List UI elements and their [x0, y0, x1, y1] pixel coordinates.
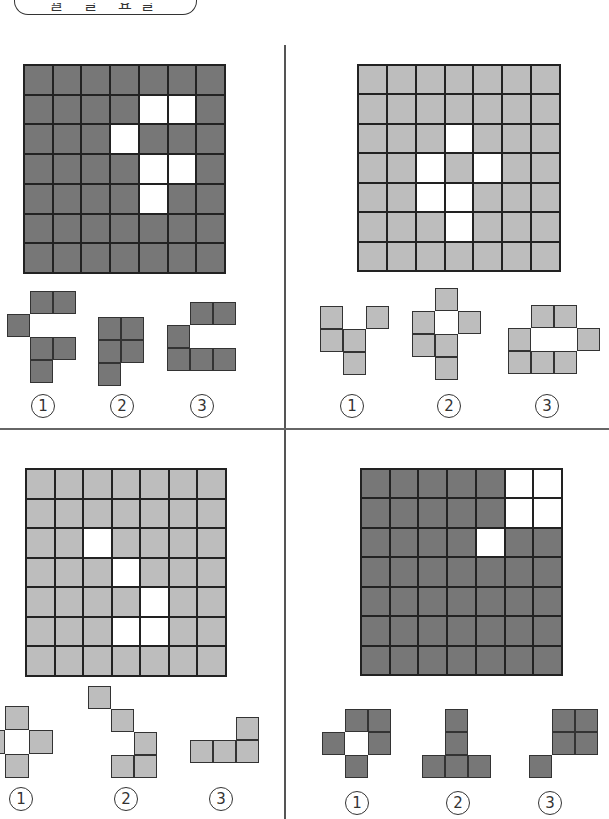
grid-cell-filled	[24, 154, 53, 184]
piece-cell	[577, 328, 600, 351]
piece-cell	[343, 329, 366, 352]
grid-cell-filled	[139, 214, 168, 244]
grid-cell-filled	[196, 214, 225, 244]
piece-cell	[29, 730, 53, 754]
piece-cell	[134, 732, 157, 755]
grid-cell-filled	[53, 124, 82, 154]
grid-cell-filled	[168, 124, 197, 154]
grid-cell-filled	[416, 94, 445, 123]
grid-cell-filled	[390, 469, 419, 498]
piece-cell	[167, 325, 190, 348]
piece-cell	[468, 755, 491, 778]
piece-cell	[236, 740, 259, 763]
grid-cell-filled	[416, 124, 445, 153]
piece-cell	[508, 351, 531, 374]
choice-label-bottom-right-3[interactable]: 3	[538, 791, 562, 815]
grid-cell-filled	[139, 124, 168, 154]
grid-cell-filled	[502, 153, 531, 182]
grid-cell-filled	[445, 65, 474, 94]
choice-label-bottom-left-2[interactable]: 2	[114, 787, 138, 811]
piece-cell	[366, 306, 389, 329]
grid-cell-empty	[476, 528, 505, 557]
grid-cell-filled	[502, 94, 531, 123]
grid-cell-filled	[476, 469, 505, 498]
choice-label-bottom-left-3[interactable]: 3	[209, 787, 233, 811]
grid-cell-filled	[473, 124, 502, 153]
puzzle-grid-bottom-right	[360, 468, 563, 676]
grid-cell-filled	[26, 646, 55, 676]
choice-label-top-left-3[interactable]: 3	[190, 394, 214, 418]
grid-cell-filled	[358, 94, 387, 123]
piece-cell	[422, 755, 445, 778]
grid-cell-empty	[168, 154, 197, 184]
piece-cell	[5, 706, 29, 730]
grid-cell-filled	[505, 528, 534, 557]
grid-cell-filled	[387, 94, 416, 123]
grid-cell-filled	[83, 617, 112, 647]
grid-cell-filled	[445, 153, 474, 182]
choice-label-top-right-2[interactable]: 2	[437, 394, 461, 418]
choice-label-top-right-1[interactable]: 1	[340, 394, 364, 418]
grid-cell-filled	[390, 557, 419, 586]
grid-cell-filled	[140, 646, 169, 676]
grid-cell-filled	[390, 587, 419, 616]
choice-label-bottom-right-1[interactable]: 1	[345, 791, 369, 815]
grid-cell-filled	[81, 154, 110, 184]
grid-cell-filled	[53, 65, 82, 95]
grid-cell-filled	[447, 469, 476, 498]
piece-cell	[213, 740, 236, 763]
grid-cell-filled	[533, 557, 562, 586]
choice-label-top-right-3[interactable]: 3	[535, 394, 559, 418]
grid-cell-filled	[531, 124, 560, 153]
grid-cell-filled	[476, 587, 505, 616]
grid-cell-filled	[169, 617, 198, 647]
grid-cell-filled	[110, 95, 139, 125]
piece-cell	[445, 732, 468, 755]
piece-cell	[30, 360, 53, 383]
grid-cell-filled	[358, 183, 387, 212]
grid-cell-filled	[139, 243, 168, 273]
piece-cell	[320, 306, 343, 329]
choice-label-top-left-2[interactable]: 2	[110, 394, 134, 418]
grid-cell-filled	[24, 95, 53, 125]
piece-cell	[5, 754, 29, 778]
grid-cell-filled	[476, 646, 505, 675]
grid-cell-filled	[110, 154, 139, 184]
piece-cell	[552, 709, 575, 732]
grid-cell-filled	[361, 528, 390, 557]
piece-cell	[30, 291, 53, 314]
grid-cell-filled	[26, 617, 55, 647]
grid-cell-filled	[83, 587, 112, 617]
grid-cell-filled	[387, 65, 416, 94]
piece-cell	[213, 302, 236, 325]
choice-label-top-left-1[interactable]: 1	[31, 394, 55, 418]
grid-cell-filled	[24, 124, 53, 154]
piece-cell	[529, 755, 552, 778]
grid-cell-filled	[447, 557, 476, 586]
grid-cell-filled	[197, 646, 226, 676]
piece-cell	[111, 709, 134, 732]
piece-cell	[320, 329, 343, 352]
choice-label-bottom-right-2[interactable]: 2	[446, 791, 470, 815]
grid-cell-filled	[81, 95, 110, 125]
grid-cell-filled	[197, 499, 226, 529]
grid-cell-filled	[197, 469, 226, 499]
grid-cell-filled	[476, 616, 505, 645]
grid-cell-filled	[169, 587, 198, 617]
piece-cell	[190, 302, 213, 325]
choice-label-bottom-left-1[interactable]: 1	[9, 787, 33, 811]
grid-cell-filled	[169, 499, 198, 529]
grid-cell-empty	[139, 184, 168, 214]
grid-cell-filled	[505, 646, 534, 675]
grid-cell-filled	[140, 499, 169, 529]
piece-cell	[458, 311, 481, 334]
grid-cell-filled	[55, 587, 84, 617]
grid-cell-empty	[505, 469, 534, 498]
grid-cell-filled	[196, 124, 225, 154]
grid-cell-filled	[168, 184, 197, 214]
grid-cell-filled	[416, 212, 445, 241]
grid-cell-filled	[502, 212, 531, 241]
grid-cell-filled	[110, 243, 139, 273]
grid-cell-filled	[26, 528, 55, 558]
grid-cell-filled	[55, 528, 84, 558]
